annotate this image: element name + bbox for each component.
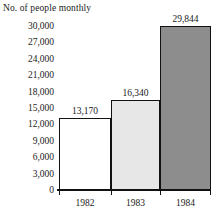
y-tick-label-12000: 12,000 — [28, 119, 54, 129]
x-tick-mark-1984 — [160, 190, 161, 195]
y-tick-label-15000: 15,000 — [28, 103, 54, 113]
bar-1984 — [160, 26, 211, 189]
bar-value-label-1983: 16,340 — [122, 88, 148, 99]
y-tick-label-0: 0 — [49, 185, 54, 195]
bar-1983 — [111, 100, 160, 189]
x-tick-label-1982: 1982 — [76, 198, 95, 209]
y-tick-label-24000: 24,000 — [28, 54, 54, 64]
chart-title: No. of people monthly — [3, 2, 91, 14]
y-tick-label-30000: 30,000 — [28, 21, 54, 31]
y-tick-label-21000: 21,000 — [28, 70, 54, 80]
y-tick-label-27000: 27,000 — [28, 37, 54, 47]
y-tick-label-9000: 9,000 — [33, 136, 54, 146]
x-tick-mark-1983 — [111, 190, 112, 195]
bar-1982 — [59, 118, 111, 190]
bar-value-label-1982: 13,170 — [72, 106, 98, 117]
x-tick-mark-end — [210, 190, 211, 195]
y-tick-label-6000: 6,000 — [33, 152, 54, 162]
x-tick-mark-1982 — [59, 190, 60, 195]
plot-area: 0 3,000 6,000 9,000 12,000 15,000 18,000… — [59, 26, 211, 190]
bar-value-label-1984: 29,844 — [172, 14, 198, 25]
y-tick-label-3000: 3,000 — [33, 169, 54, 179]
bar-chart: No. of people monthly 0 3,000 6,000 9,00… — [0, 0, 221, 221]
x-tick-label-1983: 1983 — [126, 198, 145, 209]
y-tick-label-18000: 18,000 — [28, 87, 54, 97]
x-tick-label-1984: 1984 — [176, 198, 195, 209]
